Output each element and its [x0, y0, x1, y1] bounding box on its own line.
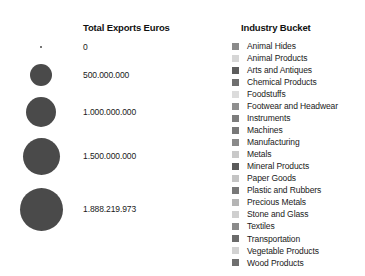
- legend-swatch-icon: [232, 67, 239, 74]
- legend-item[interactable]: Textiles: [232, 221, 365, 233]
- legend-swatch-icon: [232, 259, 239, 266]
- legend-item-label: Animal Products: [247, 54, 307, 63]
- legend-item[interactable]: Foodstuffs: [232, 88, 365, 100]
- legend-item-label: Precious Metals: [247, 198, 306, 207]
- legend-swatch-icon: [232, 91, 239, 98]
- legend-item[interactable]: Stone and Glass: [232, 209, 365, 221]
- legend-item[interactable]: Precious Metals: [232, 197, 365, 209]
- legend-item-label: Machines: [247, 126, 283, 135]
- color-legend-items: Animal HidesAnimal ProductsArts and Anti…: [232, 40, 365, 269]
- legend-swatch-icon: [232, 79, 239, 86]
- legend-swatch-icon: [232, 223, 239, 230]
- legend-item[interactable]: Animal Hides: [232, 40, 365, 52]
- size-legend-title: Total Exports Euros: [83, 22, 170, 33]
- legend-item-label: Textiles: [247, 222, 275, 231]
- chart-legend-panel: Total Exports Euros 0500.000.0001.000.00…: [0, 0, 365, 276]
- legend-item-label: Paper Goods: [247, 174, 296, 183]
- legend-item[interactable]: Animal Products: [232, 52, 365, 64]
- legend-item[interactable]: Chemical Products: [232, 76, 365, 88]
- legend-item-label: Stone and Glass: [247, 210, 308, 219]
- legend-item[interactable]: Metals: [232, 148, 365, 160]
- size-legend-value-label: 1.888.219.973: [83, 204, 136, 214]
- legend-swatch-icon: [232, 175, 239, 182]
- color-legend-title: Industry Bucket: [241, 22, 311, 33]
- legend-item-label: Manufacturing: [247, 138, 300, 147]
- legend-item[interactable]: Machines: [232, 124, 365, 136]
- legend-item[interactable]: Manufacturing: [232, 136, 365, 148]
- size-legend-value-label: 500.000.000: [83, 70, 129, 80]
- legend-swatch-icon: [232, 199, 239, 206]
- size-legend-value-label: 1.500.000.000: [83, 151, 136, 161]
- legend-swatch-icon: [232, 211, 239, 218]
- legend-swatch-icon: [232, 235, 239, 242]
- size-legend-bubble: [30, 64, 52, 86]
- legend-item-label: Instruments: [247, 114, 290, 123]
- legend-swatch-icon: [232, 103, 239, 110]
- legend-swatch-icon: [232, 163, 239, 170]
- legend-item[interactable]: Paper Goods: [232, 173, 365, 185]
- size-legend-bubble: [20, 188, 63, 231]
- legend-item-label: Footwear and Headwear: [247, 102, 338, 111]
- legend-swatch-icon: [232, 115, 239, 122]
- legend-swatch-icon: [232, 127, 239, 134]
- color-legend: Industry Bucket Animal HidesAnimal Produ…: [232, 0, 365, 276]
- size-legend-bubble: [26, 97, 56, 127]
- legend-item[interactable]: Footwear and Headwear: [232, 100, 365, 112]
- legend-item-label: Chemical Products: [247, 78, 317, 87]
- size-legend-value-label: 1.000.000.000: [83, 107, 136, 117]
- legend-item-label: Transportation: [247, 235, 300, 244]
- size-legend: Total Exports Euros 0500.000.0001.000.00…: [0, 0, 200, 276]
- legend-item[interactable]: Plastic and Rubbers: [232, 185, 365, 197]
- legend-item[interactable]: Instruments: [232, 112, 365, 124]
- legend-item-label: Metals: [247, 150, 271, 159]
- legend-swatch-icon: [232, 43, 239, 50]
- legend-item-label: Plastic and Rubbers: [247, 186, 321, 195]
- legend-item[interactable]: Wood Products: [232, 257, 365, 269]
- legend-swatch-icon: [232, 247, 239, 254]
- legend-item-label: Mineral Products: [247, 162, 309, 171]
- legend-swatch-icon: [232, 139, 239, 146]
- legend-item-label: Wood Products: [247, 259, 304, 268]
- legend-item[interactable]: Transportation: [232, 233, 365, 245]
- size-legend-bubble: [40, 46, 42, 48]
- legend-swatch-icon: [232, 151, 239, 158]
- legend-item-label: Foodstuffs: [247, 90, 286, 99]
- legend-item[interactable]: Mineral Products: [232, 160, 365, 172]
- legend-item-label: Vegetable Products: [247, 247, 319, 256]
- size-legend-value-label: 0: [83, 42, 88, 52]
- legend-swatch-icon: [232, 55, 239, 62]
- legend-item[interactable]: Vegetable Products: [232, 245, 365, 257]
- legend-swatch-icon: [232, 187, 239, 194]
- size-legend-bubble: [23, 138, 60, 175]
- legend-item-label: Animal Hides: [247, 42, 296, 51]
- legend-item[interactable]: Arts and Antiques: [232, 64, 365, 76]
- legend-item-label: Arts and Antiques: [247, 66, 312, 75]
